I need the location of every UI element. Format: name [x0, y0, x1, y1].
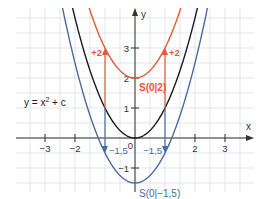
shift-label: −1,5 — [143, 145, 162, 156]
x-axis-label: x — [246, 121, 251, 132]
y-tick-label: 1 — [124, 103, 129, 114]
parabola-chart: xy−3−223−11230 +2+2−1,5−1,5 S(0|2)S(0|−1… — [0, 0, 266, 199]
x-tick-label: −3 — [40, 143, 51, 154]
shift-label: +2 — [91, 47, 102, 58]
origin-label: 0 — [128, 140, 133, 151]
y-axis-label: y — [141, 9, 146, 20]
y-tick-label: 3 — [124, 43, 129, 54]
vertex-label: S(0|−1,5) — [139, 188, 180, 199]
formula-label: y = x2 + c — [24, 96, 66, 108]
x-tick-label: −2 — [70, 143, 81, 154]
shift-label: −1,5 — [109, 145, 128, 156]
vertex-label: S(0|2) — [139, 82, 166, 93]
x-tick-label: 3 — [222, 143, 227, 154]
y-axis-arrow-icon — [132, 8, 138, 16]
shift-label: +2 — [169, 47, 180, 58]
x-tick-label: 2 — [192, 143, 197, 154]
y-tick-label: −1 — [118, 163, 129, 174]
x-axis-arrow-icon — [246, 135, 254, 141]
labels: S(0|2)S(0|−1,5)y = x2 + c — [24, 82, 180, 199]
